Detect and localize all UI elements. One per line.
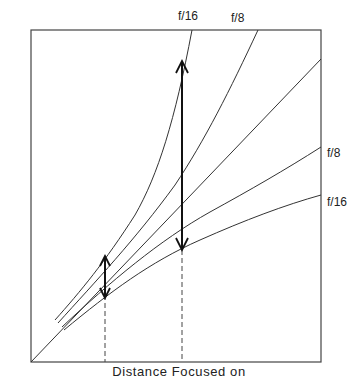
depth-of-field-diagram: [0, 0, 358, 385]
far-limit-f8-curve: [58, 30, 258, 323]
dof-arrow-far: [176, 61, 188, 250]
label-far-f8: f/8: [231, 11, 244, 25]
far-limit-f16-curve: [55, 30, 192, 320]
label-near-f16: f/16: [327, 195, 347, 209]
label-near-f8: f/8: [327, 146, 340, 160]
dof-arrow-near: [100, 256, 110, 298]
plot-frame: [31, 30, 321, 362]
x-axis-label: Distance Focused on: [0, 364, 358, 379]
label-far-f16: f/16: [178, 9, 198, 23]
